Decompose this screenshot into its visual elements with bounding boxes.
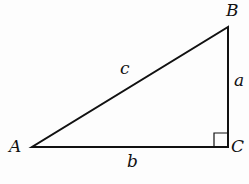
triangle-diagram: B a c A C b xyxy=(0,0,249,184)
vertex-label-c: C xyxy=(231,138,244,155)
right-angle-marker xyxy=(214,133,228,147)
triangle-figure xyxy=(0,0,249,184)
side-label-c: c xyxy=(120,60,130,77)
side-label-a: a xyxy=(234,72,244,89)
vertex-label-b: B xyxy=(226,2,239,19)
side-label-b: b xyxy=(127,153,138,170)
triangle-shape xyxy=(32,27,228,147)
vertex-label-a: A xyxy=(9,138,21,155)
